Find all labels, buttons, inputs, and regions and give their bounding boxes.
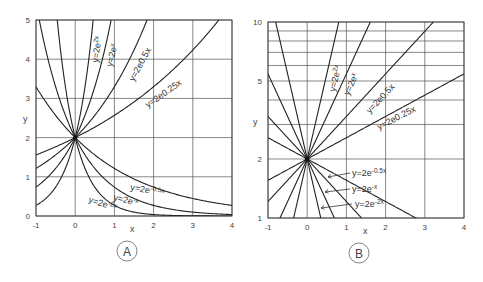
- chart-b-ylabel: y: [253, 117, 258, 127]
- chart-b: -10123412510 y x y=2e2x y=2ex y=2e0.5x y…: [253, 0, 467, 277]
- chart-a: -101234012345 y x y=2e2x y=2ex y=2e0.5x …: [23, 0, 235, 261]
- chart-a-xlabel: x: [130, 224, 135, 234]
- x-tick-label: 2: [151, 221, 156, 230]
- x-tick-label: 0: [73, 221, 78, 230]
- chart-b-label-km05: y=2e-0.5x: [352, 167, 387, 178]
- y-tick-label: 4: [26, 55, 31, 64]
- intersection-point: [305, 157, 309, 161]
- y-tick-label: 2: [26, 134, 31, 143]
- chart-a-label-k025: y=2e0.25x: [143, 77, 183, 109]
- x-tick-label: 4: [462, 223, 467, 232]
- chart-b-label-k1: y=2ex: [341, 71, 361, 97]
- curve-line: [36, 0, 232, 205]
- y-tick-label: 1: [26, 173, 31, 182]
- chart-b-label-k2: y=2e2x: [326, 63, 343, 92]
- y-tick-label: 5: [258, 77, 263, 86]
- y-tick-label: 1: [258, 214, 263, 223]
- curve-line: [268, 74, 464, 180]
- x-tick-label: 3: [423, 223, 428, 232]
- intersection-point: [73, 135, 77, 139]
- curve-line: [36, 0, 232, 187]
- figure: -101234012345 y x y=2e2x y=2ex y=2e0.5x …: [0, 0, 483, 282]
- chart-b-label-km2: y=2e-2x: [355, 198, 385, 209]
- panel-a-badge: A: [123, 245, 131, 259]
- x-tick-label: 0: [305, 223, 310, 232]
- x-tick-label: 2: [383, 223, 388, 232]
- chart-b-xlabel: x: [363, 226, 368, 236]
- x-tick-label: -1: [264, 223, 272, 232]
- panel-b-badge: B: [355, 247, 363, 261]
- y-tick-label: 0: [26, 212, 31, 221]
- x-tick-label: 1: [344, 223, 349, 232]
- chart-a-label-k05: y=2e0.5x: [127, 45, 153, 83]
- y-tick-label: 2: [258, 155, 263, 164]
- x-tick-label: -1: [32, 221, 40, 230]
- curve-line: [268, 116, 464, 277]
- y-tick-label: 5: [26, 16, 31, 25]
- chart-b-label-k05: y=2e0.5x: [364, 81, 397, 115]
- x-tick-label: 3: [191, 221, 196, 230]
- chart-b-label-k025: y=2e0.25x: [375, 104, 417, 132]
- y-tick-label: 10: [253, 18, 262, 27]
- y-tick-label: 3: [26, 94, 31, 103]
- chart-b-label-km1: y=2e-x: [352, 183, 378, 194]
- x-tick-label: 4: [230, 221, 235, 230]
- chart-a-ylabel: y: [23, 114, 28, 124]
- chart-b-arrow-km2: [321, 204, 352, 209]
- x-tick-label: 1: [112, 221, 117, 230]
